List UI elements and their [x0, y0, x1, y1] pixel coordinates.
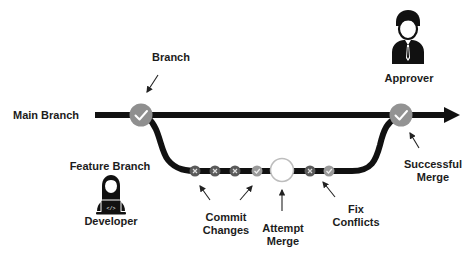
main-branch-label: Main Branch — [13, 109, 79, 122]
commit-arrow-right-icon — [240, 186, 252, 200]
fix-conflicts-arrow-icon — [323, 182, 335, 197]
developer-laptop-icon: </> — [96, 175, 126, 215]
developer-label: Developer — [80, 215, 142, 228]
commit-changes-label: Commit Changes — [196, 211, 256, 237]
commit-arrow-left-icon — [200, 186, 210, 200]
businessman-icon — [392, 10, 424, 64]
successful-merge-label: Successful Merge — [400, 158, 466, 184]
commit-node-1 — [190, 166, 201, 177]
branch-arrow-icon — [147, 75, 158, 92]
fix-conflicts-line-1: Fix — [326, 203, 386, 216]
feature-branch-label: Feature Branch — [68, 160, 152, 173]
merge-point-node — [390, 104, 413, 127]
attempt-merge-line-2: Merge — [254, 235, 312, 248]
commit-node-6 — [324, 166, 335, 177]
fix-conflicts-line-2: Conflicts — [326, 216, 386, 229]
commit-node-2 — [210, 166, 221, 177]
successful-merge-arrow-icon — [410, 133, 419, 148]
fix-conflicts-label: Fix Conflicts — [326, 203, 386, 229]
main-branch-arrowhead-icon — [444, 107, 460, 123]
commit-changes-line-1: Commit — [196, 211, 256, 224]
successful-merge-line-2: Merge — [400, 171, 466, 184]
attempt-merge-label: Attempt Merge — [254, 222, 312, 248]
attempt-merge-node — [271, 159, 294, 182]
git-workflow-diagram: </> Branch Main Branch Approver Feature … — [0, 0, 472, 254]
attempt-merge-line-1: Attempt — [254, 222, 312, 235]
commit-changes-line-2: Changes — [196, 224, 256, 237]
commit-node-3 — [230, 166, 241, 177]
branch-point-node — [130, 104, 153, 127]
successful-merge-line-1: Successful — [400, 158, 466, 171]
commit-node-5 — [305, 166, 316, 177]
code-glyph: </> — [106, 206, 115, 212]
branch-label: Branch — [151, 51, 191, 64]
approver-label: Approver — [378, 72, 440, 85]
commit-node-4 — [252, 166, 263, 177]
